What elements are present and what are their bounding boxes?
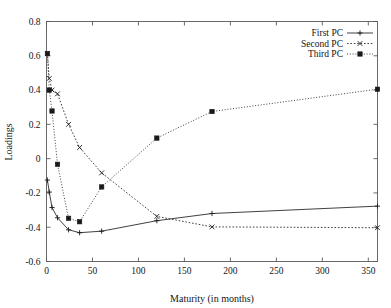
legend-label-1: First PC [312,28,343,38]
x-axis-tick-label: 300 [315,266,330,276]
y-axis-label: Loadings [3,123,14,160]
data-point [155,136,159,140]
x-axis-tick-label: 200 [223,266,238,276]
data-point [66,216,70,220]
chart-figure: -0.6-0.4-0.200.20.40.60.8 05010015020025… [0,0,391,308]
y-axis-tick-label: -0.4 [25,223,40,233]
chart-canvas: -0.6-0.4-0.200.20.40.60.8 05010015020025… [0,0,391,308]
data-point [99,185,103,189]
data-point [45,51,49,55]
data-point [77,220,81,224]
data-point [210,109,214,113]
y-axis-tick-label: 0.6 [29,51,41,61]
legend-marker-3 [358,52,362,56]
data-point [55,162,59,166]
y-axis-tick-label: -0.2 [25,188,40,198]
y-axis-tick-label: 0 [36,154,41,164]
y-axis-tick-label: 0.8 [29,17,41,27]
data-point [50,109,54,113]
x-axis-label: Maturity (in months) [170,293,254,305]
x-axis-tick-label: 150 [177,266,192,276]
x-axis-tick-label: 50 [88,266,98,276]
data-point [375,87,379,91]
legend-label-3: Third PC [308,49,343,59]
data-point [47,88,51,92]
x-axis-tick-label: 100 [131,266,146,276]
y-axis-tick-label: 0.4 [29,85,41,95]
legend-label-2: Second PC [301,39,343,49]
x-axis-tick-label: 0 [44,266,49,276]
y-axis-tick-label: 0.2 [29,120,41,130]
y-axis-tick-label: -0.6 [25,257,40,267]
x-axis-tick-label: 250 [269,266,284,276]
x-axis-tick-label: 350 [361,266,376,276]
